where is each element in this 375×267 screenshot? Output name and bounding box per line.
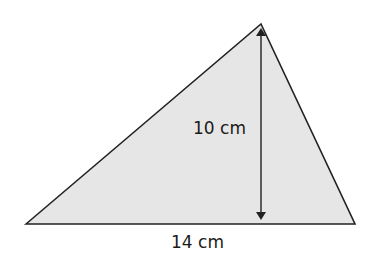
base-label: 14 cm [171,232,224,252]
height-label: 10 cm [193,118,246,138]
triangle-shape [26,24,355,224]
triangle-diagram [0,0,375,267]
